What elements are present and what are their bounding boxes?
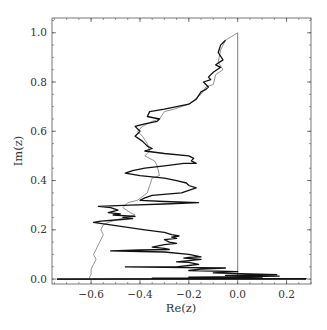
plot-frame [52,18,311,284]
x-tick-label: −0.6 [78,288,104,300]
y-tick-label: 0.4 [30,174,47,186]
y-tick-label: 0.8 [30,76,47,88]
x-tick-label: 0.2 [278,288,295,300]
x-tick-label: −0.4 [127,288,153,300]
x-tick-labels: −0.6−0.4−0.20.00.2 [78,288,295,300]
x-tick-label: −0.2 [176,288,202,300]
x-tick-label: 0.0 [229,288,246,300]
y-tick-label: 0.0 [30,273,47,285]
y-tick-label: 0.2 [30,223,47,235]
complex-path-chart: −0.6−0.4−0.20.00.2 0.00.20.40.60.81.0 Re… [0,0,327,330]
x-axis-label: Re(z) [166,301,197,315]
y-tick-label: 1.0 [30,26,47,38]
y-tick-labels: 0.00.20.40.60.81.0 [30,26,47,284]
y-tick-label: 0.6 [30,125,47,137]
y-axis-label: Im(z) [11,136,25,166]
